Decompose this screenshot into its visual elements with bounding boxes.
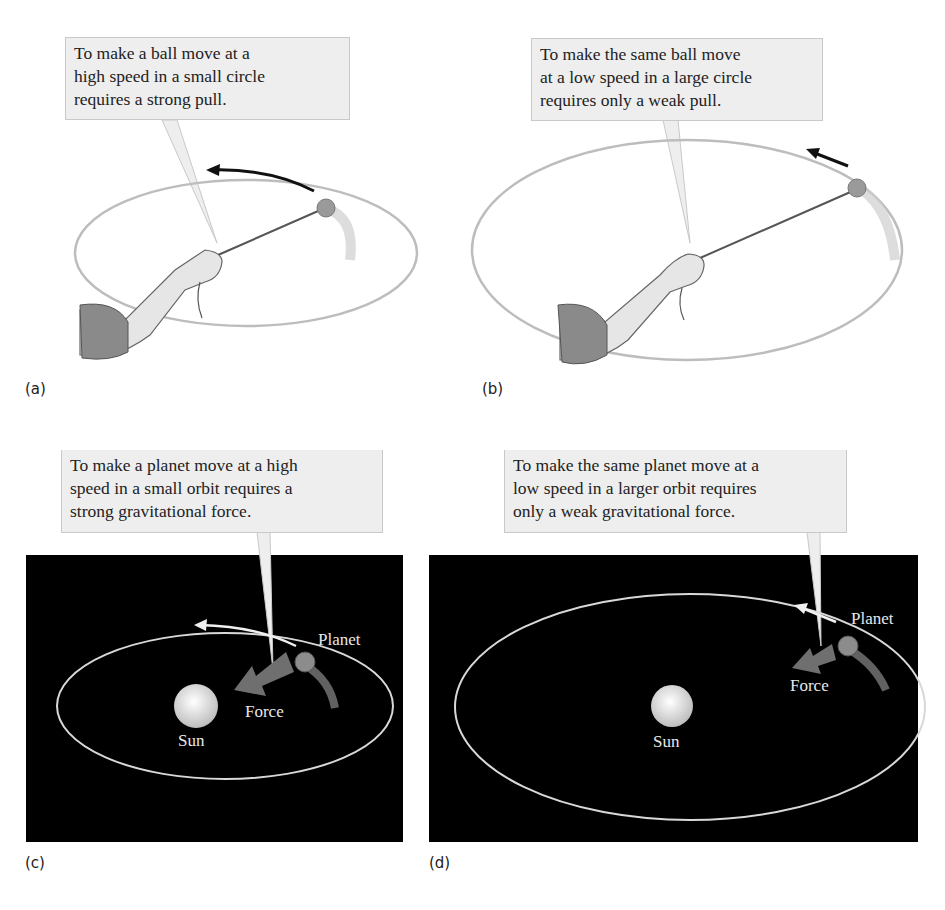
panel-label-c: (c) <box>25 854 45 872</box>
sun-icon <box>174 684 218 728</box>
planet-icon <box>838 636 858 656</box>
ball-icon <box>848 179 866 197</box>
sun-icon <box>651 685 693 727</box>
panel-label-b: (b) <box>482 380 503 398</box>
callout-d: To make the same planet move at a low sp… <box>504 450 847 533</box>
panel-a: To make a ball move at a high speed in a… <box>0 0 470 450</box>
callout-c: To make a planet move at a high speed in… <box>61 450 383 533</box>
force-label-c: Force <box>245 702 284 722</box>
orbit-path <box>57 633 393 779</box>
ball-icon <box>317 199 335 217</box>
panel-c: To make a planet move at a high speed in… <box>0 450 470 910</box>
force-arrow-icon <box>792 644 836 674</box>
panel-b: To make the same ball move at a low spee… <box>470 0 945 450</box>
force-arrow-icon <box>234 652 294 696</box>
force-label-d: Force <box>790 676 829 696</box>
sun-label-d: Sun <box>653 732 679 752</box>
panel-label-a: (a) <box>25 380 46 398</box>
planet-label-d: Planet <box>851 609 894 629</box>
planet-label-c: Planet <box>318 630 361 650</box>
callout-b: To make the same ball move at a low spee… <box>531 38 823 121</box>
motion-arrow-icon <box>200 625 296 646</box>
callout-a: To make a ball move at a high speed in a… <box>65 37 350 120</box>
panel-label-d: (d) <box>429 854 450 872</box>
sun-label-c: Sun <box>178 731 204 751</box>
panel-d: To make the same planet move at a low sp… <box>420 450 945 910</box>
planet-icon <box>295 652 315 672</box>
